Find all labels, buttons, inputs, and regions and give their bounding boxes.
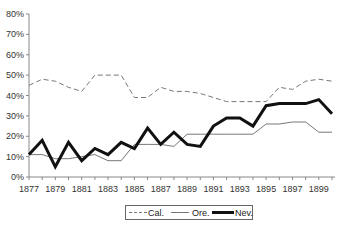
x-tick-label: 1891: [203, 184, 223, 194]
y-tick-label: 50%: [6, 70, 24, 80]
x-tick-label: 1879: [45, 184, 65, 194]
y-tick-label: 10%: [6, 152, 24, 162]
x-tick-label: 1897: [282, 184, 302, 194]
x-tick-label: 1895: [256, 184, 276, 194]
x-tick-label: 1893: [230, 184, 250, 194]
x-tick-label: 1889: [177, 184, 197, 194]
y-tick-label: 60%: [6, 50, 24, 60]
y-tick-label: 30%: [6, 111, 24, 121]
x-axis: 1877187918811883188518871889189118931895…: [19, 177, 335, 194]
y-tick-label: 70%: [6, 29, 24, 39]
legend-label: Ore.: [192, 208, 210, 218]
x-tick-label: 1899: [309, 184, 329, 194]
legend-label: Cal.: [148, 208, 164, 218]
y-axis: 0%10%20%30%40%50%60%70%80%: [6, 9, 29, 182]
series-line-ore: [29, 122, 332, 161]
line-chart: 0%10%20%30%40%50%60%70%80% 1877187918811…: [0, 0, 341, 227]
x-tick-label: 1877: [19, 184, 39, 194]
y-tick-label: 80%: [6, 9, 24, 19]
x-tick-label: 1883: [98, 184, 118, 194]
x-tick-label: 1881: [72, 184, 92, 194]
y-tick-label: 0%: [11, 172, 24, 182]
series-line-cal: [29, 75, 332, 102]
x-tick-label: 1885: [124, 184, 144, 194]
series-layer: [29, 75, 332, 167]
legend: Cal.Ore.Nev.: [126, 206, 253, 220]
x-tick-label: 1887: [151, 184, 171, 194]
y-tick-label: 40%: [6, 91, 24, 101]
y-tick-label: 20%: [6, 131, 24, 141]
series-line-nev: [29, 100, 332, 167]
legend-label: Nev.: [235, 208, 253, 218]
